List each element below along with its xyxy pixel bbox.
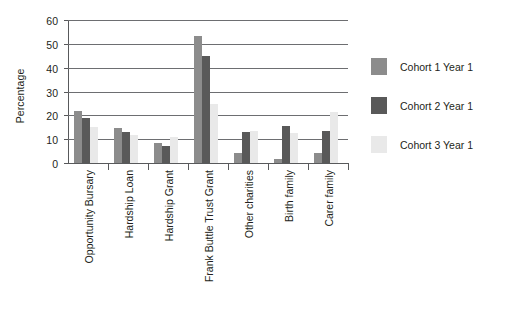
bar — [154, 143, 162, 163]
y-axis-tick-label: 0 — [52, 158, 58, 170]
legend-item: Cohort 2 Year 1 — [371, 97, 503, 114]
x-axis-tick — [148, 163, 149, 170]
bar — [322, 131, 330, 163]
bar — [130, 135, 138, 163]
bar — [170, 137, 178, 163]
x-axis-tick — [308, 163, 309, 170]
y-axis-title: Percentage — [14, 48, 34, 144]
legend-label: Cohort 3 Year 1 — [400, 139, 473, 151]
bar-group — [314, 20, 348, 163]
bar — [74, 111, 82, 163]
bar — [194, 36, 202, 164]
legend-item: Cohort 3 Year 1 — [371, 136, 503, 153]
x-axis-category-label: Birth family — [282, 170, 296, 290]
y-axis-tick-label: 30 — [46, 87, 58, 99]
legend-item: Cohort 1 Year 1 — [371, 58, 503, 75]
x-axis-category-label: Hardship Loan — [122, 170, 136, 290]
bar-group — [194, 20, 228, 163]
bar — [202, 56, 210, 163]
legend-label: Cohort 1 Year 1 — [400, 61, 473, 73]
y-axis-tick-label: 20 — [46, 110, 58, 122]
x-axis-tick — [108, 163, 109, 170]
bar-chart-figure: Percentage 0102030405060 Opportunity Bur… — [0, 0, 507, 321]
legend-label: Cohort 2 Year 1 — [400, 100, 473, 112]
legend-color-swatch — [371, 58, 387, 75]
bar — [90, 127, 98, 163]
bar-group — [274, 20, 308, 163]
bar-group — [74, 20, 108, 163]
x-axis-category-label: Hardship Grant — [162, 170, 176, 290]
bar — [314, 153, 322, 163]
bar-group — [234, 20, 268, 163]
bar-group — [154, 20, 188, 163]
y-axis-tick-label: 60 — [46, 15, 58, 27]
legend-color-swatch — [371, 97, 387, 114]
x-axis-tick — [188, 163, 189, 170]
bar — [82, 118, 90, 163]
x-axis-tick — [348, 163, 349, 170]
bar — [330, 112, 338, 163]
bar — [114, 128, 122, 163]
bar — [250, 131, 258, 163]
bar-group — [114, 20, 148, 163]
bar — [234, 153, 242, 163]
x-axis-category-label: Carer family — [322, 170, 336, 290]
x-axis-labels: Opportunity BursaryHardship LoanHardship… — [68, 170, 348, 300]
plot-area: 0102030405060 — [68, 20, 348, 163]
x-axis-tick — [228, 163, 229, 170]
chart-legend: Cohort 1 Year 1Cohort 2 Year 1Cohort 3 Y… — [371, 58, 503, 175]
bar-series-container — [68, 20, 348, 163]
bar — [210, 104, 218, 163]
bar — [242, 132, 250, 163]
y-axis-tick-label: 40 — [46, 63, 58, 75]
bar — [162, 146, 170, 163]
x-axis-category-label: Other charities — [242, 170, 256, 290]
y-axis-tick: 0 — [64, 163, 68, 164]
bar — [274, 159, 282, 163]
gridline — [68, 163, 348, 164]
y-axis-tick-label: 50 — [46, 39, 58, 51]
x-axis-category-label: Opportunity Bursary — [82, 170, 96, 290]
legend-color-swatch — [371, 136, 387, 153]
bar — [290, 133, 298, 163]
bar — [122, 132, 130, 163]
x-axis-category-label: Frank Buttle Trust Grant — [202, 170, 216, 290]
bar — [282, 126, 290, 163]
y-axis-tick-label: 10 — [46, 134, 58, 146]
x-axis-tick — [268, 163, 269, 170]
